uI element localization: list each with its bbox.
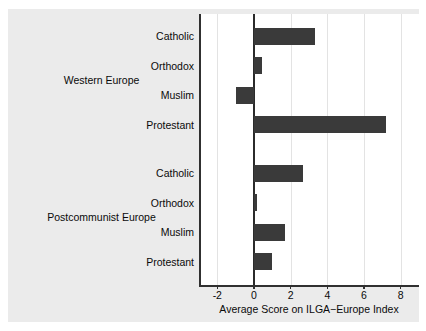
x-tick-label-4: 6 <box>349 289 379 301</box>
gridline-4 <box>364 14 365 285</box>
x-tick-label-1: 0 <box>239 289 269 301</box>
x-tick-label-3: 4 <box>312 289 342 301</box>
gridline-3 <box>327 14 328 285</box>
bar-postcommunist-europe-muslim <box>254 224 285 241</box>
bar-western-europe-protestant <box>254 116 386 133</box>
category-label-protestant: Protestant <box>146 256 194 268</box>
bar-postcommunist-europe-catholic <box>254 165 303 182</box>
gridline-0 <box>217 14 218 285</box>
chart-figure: CatholicOrthodoxMuslimProtestantCatholic… <box>0 0 426 331</box>
bar-postcommunist-europe-protestant <box>254 253 272 270</box>
x-axis-line <box>199 285 419 287</box>
bar-western-europe-orthodox <box>254 57 262 74</box>
gridline-5 <box>401 14 402 285</box>
panel-left-axis <box>199 14 201 285</box>
bar-western-europe-muslim <box>236 87 254 104</box>
group-label-western-europe: Western Europe <box>14 74 189 86</box>
x-tick-label-0: -2 <box>202 289 232 301</box>
x-axis-label: Average Score on ILGA−Europe Index <box>199 303 419 315</box>
category-label-orthodox: Orthodox <box>151 197 194 209</box>
gridline-2 <box>291 14 292 285</box>
category-label-muslim: Muslim <box>161 89 194 101</box>
x-tick-label-2: 2 <box>276 289 306 301</box>
group-label-postcommunist-europe: Postcommunist Europe <box>14 211 189 223</box>
bar-western-europe-catholic <box>254 28 315 45</box>
category-label-orthodox: Orthodox <box>151 60 194 72</box>
category-label-protestant: Protestant <box>146 119 194 131</box>
x-tick-label-5: 8 <box>386 289 416 301</box>
zero-reference-line <box>253 14 254 285</box>
category-label-muslim: Muslim <box>161 226 194 238</box>
category-label-catholic: Catholic <box>156 30 194 42</box>
bar-postcommunist-europe-orthodox <box>254 194 257 211</box>
category-label-column: CatholicOrthodoxMuslimProtestantCatholic… <box>60 0 194 331</box>
category-label-catholic: Catholic <box>156 167 194 179</box>
plot-panel <box>199 14 419 285</box>
